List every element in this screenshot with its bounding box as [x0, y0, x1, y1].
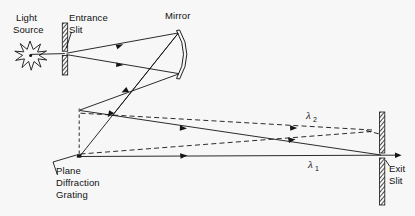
optical-diagram-figure: Light Source Entrance Slit Mirror Plane …: [0, 0, 415, 216]
grating-label-line1: Plane: [56, 165, 81, 176]
grating-label-line3: Grating: [56, 189, 88, 200]
entrance-slit-label-line2: Slit: [69, 24, 83, 35]
entrance-slit-label-line1: Entrance: [69, 12, 108, 23]
lambda1-subscript: 1: [315, 165, 319, 172]
lambda2-subscript: 2: [313, 116, 317, 123]
entrance-slit-bar: [62, 23, 67, 75]
exit-slit-bar: [379, 112, 384, 205]
exit-slit-label-line2: Slit: [389, 175, 403, 186]
light-source-label-line1: Light: [16, 12, 37, 23]
lambda2-symbol: λ: [305, 109, 311, 121]
mirror-label: Mirror: [165, 10, 190, 21]
lambda1-symbol: λ: [307, 158, 313, 170]
grating-base-marker: [77, 154, 82, 157]
exit-slit-label-line1: Exit: [389, 163, 405, 174]
grating-label-line2: Diffraction: [56, 177, 100, 188]
light-source-label-line2: Source: [13, 24, 44, 35]
